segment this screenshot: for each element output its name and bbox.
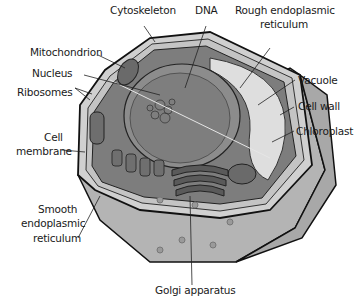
- label-chloroplast: Chloroplast: [296, 125, 353, 137]
- label-nucleus: Nucleus: [32, 67, 72, 79]
- label-dna: DNA: [195, 4, 218, 16]
- plant-cell-diagram: Cytoskeleton DNA Rough endoplasmic retic…: [0, 0, 356, 304]
- label-rough-er-line1: Rough endoplasmic: [235, 4, 335, 16]
- nucleus-inner: [130, 73, 230, 163]
- label-smooth-er-line1: Smooth: [38, 203, 77, 215]
- label-cell-membrane-line2: membrane: [16, 145, 72, 157]
- label-smooth-er-line3: reticulum: [33, 232, 81, 244]
- label-cytoskeleton: Cytoskeleton: [110, 4, 176, 16]
- label-vacuole: Vacuole: [298, 74, 338, 86]
- label-smooth-er-line2: endoplasmic: [21, 217, 85, 229]
- golgi-stack: [172, 165, 228, 196]
- label-rough-er-line2: reticulum: [260, 18, 308, 30]
- label-mitochondrion: Mitochondrion: [30, 46, 102, 58]
- label-ribosomes: Ribosomes: [17, 86, 73, 98]
- mitochondrion-left: [90, 112, 104, 144]
- label-golgi-apparatus: Golgi apparatus: [155, 284, 236, 296]
- label-cell-wall: Cell wall: [298, 100, 340, 112]
- chloroplast: [228, 164, 256, 184]
- label-cell-membrane-line1: Cell: [44, 131, 63, 143]
